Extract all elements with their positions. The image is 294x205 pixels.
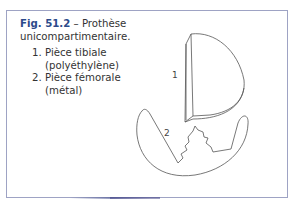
diagram-label-1: 1	[172, 70, 178, 80]
diagram-label-2: 2	[164, 128, 170, 138]
prosthesis-diagram	[0, 0, 294, 205]
tibial-piece-drawing	[185, 34, 244, 122]
